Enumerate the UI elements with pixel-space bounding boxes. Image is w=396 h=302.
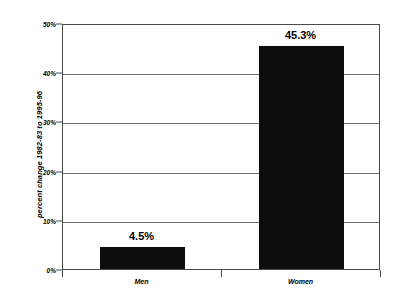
y-tick-label: 30% bbox=[16, 119, 56, 126]
x-tick-label-men: Men bbox=[102, 278, 182, 285]
y-tick-label: 0% bbox=[16, 267, 56, 274]
y-tick-label: 50% bbox=[16, 21, 56, 28]
x-tick-mark bbox=[221, 270, 222, 277]
y-tick-label: 40% bbox=[16, 70, 56, 77]
bar-value-men: 4.5% bbox=[102, 230, 182, 242]
x-tick-mark bbox=[380, 270, 381, 277]
y-tick-label: 20% bbox=[16, 168, 56, 175]
bar-value-women: 45.3% bbox=[261, 29, 341, 41]
bar-chart: percent change 1982-83 to 1995-96 0%10%2… bbox=[0, 0, 396, 302]
y-tick-label: 10% bbox=[16, 217, 56, 224]
bar-women bbox=[259, 46, 344, 269]
bar-men bbox=[100, 247, 185, 269]
x-tick-label-women: Women bbox=[261, 278, 341, 285]
x-tick-mark bbox=[62, 270, 63, 277]
